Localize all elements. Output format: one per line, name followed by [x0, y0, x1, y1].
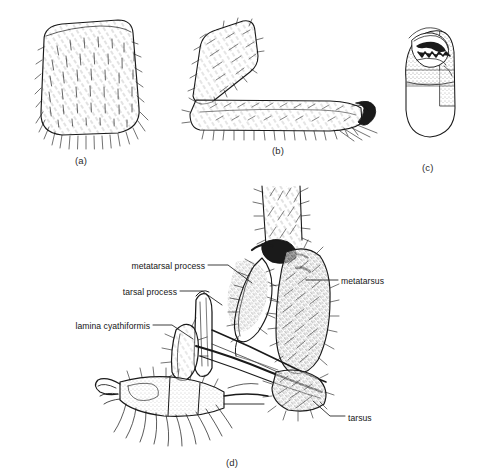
callout-label-lamina-cyathiformis: lamina cyathiformis: [30, 321, 150, 331]
panel-c-artwork: [404, 28, 460, 137]
callout-label-metatarsus: metatarsus: [341, 276, 384, 286]
illustration-canvas: [0, 0, 477, 476]
panel-b-artwork: [182, 18, 377, 141]
callout-label-tarsus: tarsus: [348, 413, 372, 423]
callout-label-tarsal-process: tarsal process: [77, 287, 177, 297]
callout-label-metatarsal-process: metatarsal process: [85, 261, 205, 271]
panel-letter-d: (d): [226, 457, 238, 468]
panel-d-artwork: [95, 186, 339, 446]
panel-letter-c: (c): [422, 162, 434, 173]
figure-plate: metatarsal process tarsal process lamina…: [0, 0, 477, 476]
panel-letter-b: (b): [272, 145, 284, 156]
panel-letter-a: (a): [75, 155, 87, 166]
panel-a-artwork: [35, 20, 148, 149]
